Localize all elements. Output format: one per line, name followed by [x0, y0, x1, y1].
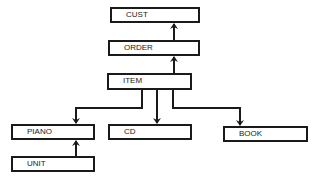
node-cust: CUST	[110, 7, 200, 23]
node-item: ITEM	[107, 73, 192, 90]
node-unit: UNIT	[11, 156, 95, 172]
node-book: BOOK	[223, 126, 308, 142]
node-cd: CD	[108, 124, 192, 140]
edge-item-piano	[76, 90, 142, 123]
node-label: UNIT	[27, 159, 46, 168]
node-label: ORDER	[124, 43, 153, 52]
node-piano: PIANO	[11, 124, 95, 140]
node-order: ORDER	[108, 40, 200, 56]
edge-item-book	[173, 90, 240, 125]
node-label: ITEM	[123, 76, 142, 85]
node-label: CUST	[126, 10, 148, 19]
node-label: PIANO	[27, 127, 52, 136]
node-label: BOOK	[239, 129, 262, 138]
node-label: CD	[124, 127, 136, 136]
